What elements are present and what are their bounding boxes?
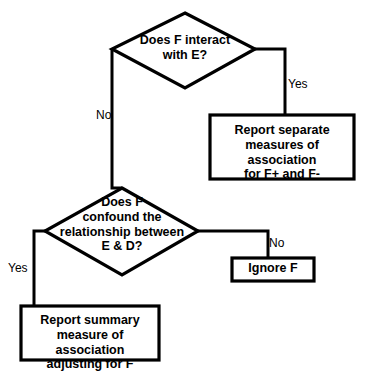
flowchart-canvas: Does F interact with E? Does F confound … — [0, 0, 367, 377]
flowchart-shapes — [0, 0, 367, 377]
ignore-f-box — [232, 258, 314, 281]
decision-interact-diamond — [112, 13, 255, 88]
edge-confound-no — [198, 231, 268, 258]
edge-label-confound-yes: Yes — [8, 261, 28, 275]
edge-label-interact-yes: Yes — [288, 77, 308, 91]
edge-interact-no — [112, 49, 122, 188]
edge-confound-yes — [34, 231, 45, 306]
report-summary-box — [21, 306, 159, 360]
decision-confound-diamond — [45, 188, 198, 275]
edge-interact-yes — [255, 49, 285, 115]
edge-label-confound-no: No — [269, 236, 284, 250]
edge-label-interact-no: No — [96, 108, 111, 122]
report-separate-box — [210, 115, 354, 179]
